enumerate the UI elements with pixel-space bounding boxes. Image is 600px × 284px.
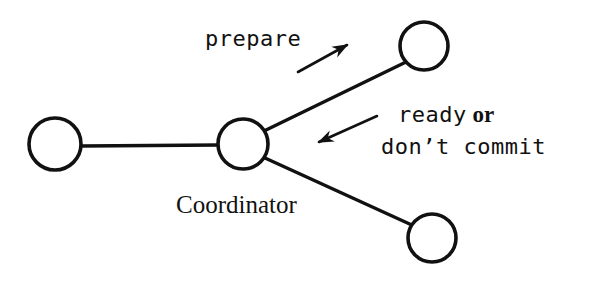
edge-coordinator-to-top-participant bbox=[264, 62, 406, 131]
node-participant-top-right[interactable] bbox=[400, 22, 448, 70]
arrow-response-direction bbox=[319, 116, 377, 142]
edge-left-to-coordinator bbox=[81, 145, 219, 146]
label-prepare: prepare bbox=[205, 28, 301, 50]
label-coordinator: Coordinator bbox=[176, 192, 297, 217]
node-coordinator[interactable] bbox=[218, 119, 268, 169]
label-or-conjunction: or bbox=[467, 102, 494, 127]
label-ready: ready bbox=[398, 102, 467, 127]
label-ready-or: ready or bbox=[398, 103, 494, 126]
label-dont-commit: don’t commit bbox=[381, 136, 546, 158]
node-participant-left[interactable] bbox=[29, 118, 81, 170]
diagram-canvas: prepare ready or don’t commit Coordinato… bbox=[0, 0, 600, 284]
arrow-prepare-direction bbox=[298, 45, 347, 72]
node-participant-bottom-right[interactable] bbox=[408, 214, 456, 262]
